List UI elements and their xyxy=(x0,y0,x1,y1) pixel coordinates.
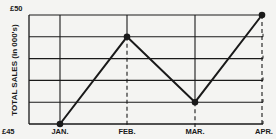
data-point-marker xyxy=(192,99,199,106)
sales-line xyxy=(60,15,262,124)
data-point-marker xyxy=(259,12,266,19)
data-series xyxy=(57,12,266,128)
sales-line-chart: £50 £45 TOTAL SALES (in 000's) JAN.FEB.M… xyxy=(0,0,276,139)
x-tick-label: APR. xyxy=(255,127,273,136)
x-axis-labels: JAN.FEB.MAR.APR. xyxy=(51,127,273,136)
x-tick-label: JAN. xyxy=(51,127,68,136)
chart-grid xyxy=(29,15,263,127)
x-tick-label: FEB. xyxy=(118,127,135,136)
data-point-marker xyxy=(124,34,131,41)
y-axis-title: TOTAL SALES (in 000's) xyxy=(10,24,19,116)
y-min-label: £45 xyxy=(2,127,15,136)
y-max-label: £50 xyxy=(10,4,23,13)
x-tick-label: MAR. xyxy=(185,127,204,136)
